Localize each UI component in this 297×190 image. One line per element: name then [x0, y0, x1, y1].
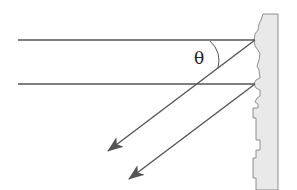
reflected-ray-1 [108, 40, 255, 151]
rough-wall [253, 14, 278, 190]
reflected-ray-2 [129, 84, 255, 179]
angle-label: θ [194, 48, 204, 68]
angle-arc [210, 41, 219, 68]
reflection-diagram: θ [0, 0, 297, 190]
diagram-graphic [0, 0, 297, 190]
